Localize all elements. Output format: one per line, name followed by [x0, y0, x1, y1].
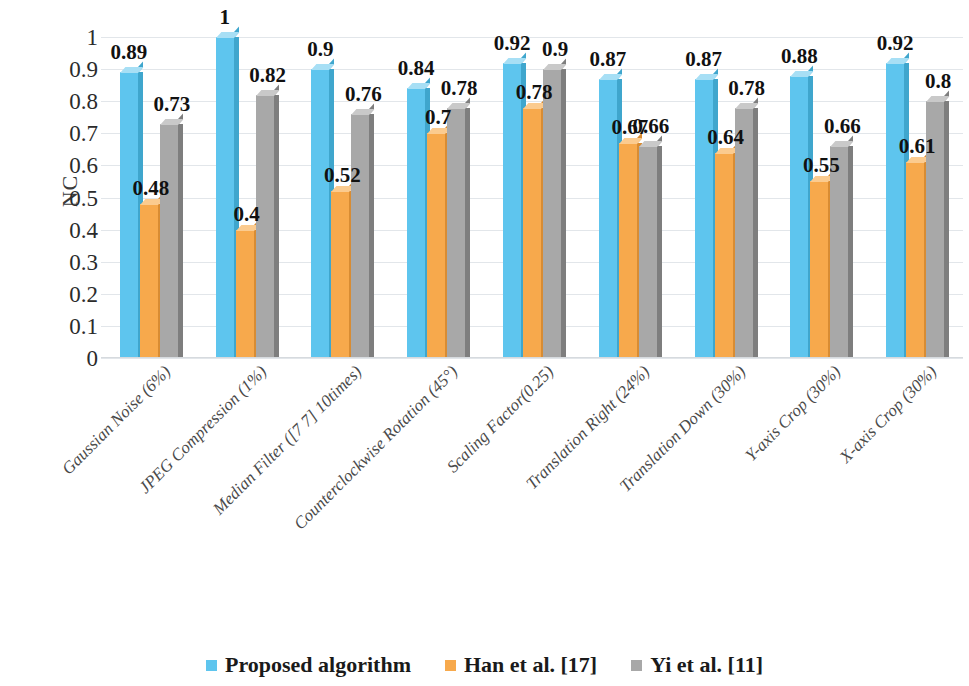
- bar[interactable]: [160, 124, 178, 358]
- bar-group: 0.920.780.9: [484, 37, 580, 358]
- bar[interactable]: [906, 162, 924, 358]
- bar-side-face: [657, 146, 662, 358]
- bar[interactable]: [619, 143, 637, 358]
- bar[interactable]: [886, 63, 904, 358]
- bar-side-face: [944, 101, 949, 358]
- bar-group: 0.920.610.8: [867, 37, 963, 358]
- bar-front-face: [810, 181, 828, 358]
- bar[interactable]: [427, 133, 445, 358]
- bar[interactable]: [447, 108, 465, 358]
- bar-front-face: [619, 143, 637, 358]
- bar[interactable]: [695, 79, 713, 358]
- bar[interactable]: [790, 76, 808, 358]
- bar-group: 0.90.520.76: [293, 37, 389, 358]
- bar-front-face: [140, 204, 158, 358]
- legend-item[interactable]: Proposed algorithm: [206, 652, 411, 678]
- bar[interactable]: [256, 95, 274, 358]
- bar-value-label: 0.9: [307, 39, 333, 60]
- bar-value-label: 0.48: [133, 178, 170, 199]
- bar-front-face: [695, 79, 713, 358]
- bar[interactable]: [543, 69, 561, 358]
- bar-value-label: 0.78: [441, 78, 478, 99]
- bar-front-face: [427, 133, 445, 358]
- bar[interactable]: [120, 72, 138, 358]
- bar-value-label: 0.4: [234, 204, 260, 225]
- bar[interactable]: [810, 181, 828, 358]
- bar-group: 10.40.82: [197, 37, 293, 358]
- bar-front-face: [906, 162, 924, 358]
- y-axis-tick-label: 0.2: [69, 282, 98, 305]
- bar-front-face: [351, 114, 369, 358]
- x-axis-tick-label: Counterclockwise Rotation (45°): [290, 362, 462, 534]
- gridline: [101, 358, 963, 359]
- y-axis-tick-label: 0.1: [69, 314, 98, 337]
- legend-swatch-icon: [445, 660, 456, 671]
- bar-group: 0.840.70.78: [388, 37, 484, 358]
- bar-value-label: 0.89: [111, 42, 148, 63]
- legend-label: Yi et al. [11]: [650, 652, 763, 678]
- bar[interactable]: [407, 88, 425, 358]
- bar-side-face: [561, 69, 566, 358]
- bar[interactable]: [331, 191, 349, 358]
- legend-item[interactable]: Yi et al. [11]: [631, 652, 763, 678]
- bar-value-label: 1: [219, 7, 230, 28]
- bar-value-label: 0.66: [824, 116, 861, 137]
- legend: Proposed algorithmHan et al. [17]Yi et a…: [0, 652, 969, 678]
- plot-area: 0.890.480.7310.40.820.90.520.760.840.70.…: [101, 37, 963, 358]
- bar[interactable]: [503, 63, 521, 358]
- bar[interactable]: [311, 69, 329, 358]
- y-axis-tick-label: 0.9: [69, 58, 98, 81]
- bar-value-label: 0.61: [899, 136, 936, 157]
- bar[interactable]: [523, 108, 541, 358]
- bar-side-face: [369, 114, 374, 358]
- bar-side-face: [848, 146, 853, 358]
- bar[interactable]: [216, 37, 234, 358]
- bar-front-face: [886, 63, 904, 358]
- bars-container: [790, 37, 848, 358]
- bar[interactable]: [830, 146, 848, 358]
- bar-side-face: [178, 124, 183, 358]
- bar-value-label: 0.87: [589, 49, 626, 70]
- bar-value-label: 0.8: [925, 71, 951, 92]
- legend-item[interactable]: Han et al. [17]: [445, 652, 597, 678]
- y-axis-tick-label: 0: [87, 347, 99, 370]
- bar-front-face: [160, 124, 178, 358]
- bar[interactable]: [140, 204, 158, 358]
- bar-front-face: [236, 230, 254, 358]
- bar-front-face: [543, 69, 561, 358]
- bar-group: 0.870.640.78: [676, 37, 772, 358]
- bar-value-label: 0.92: [877, 33, 914, 54]
- bar-value-label: 0.92: [494, 33, 531, 54]
- bar-value-label: 0.73: [154, 94, 191, 115]
- bar-value-label: 0.87: [685, 49, 722, 70]
- bar-value-label: 0.7: [425, 107, 451, 128]
- bar-group: 0.870.670.66: [580, 37, 676, 358]
- bar-group: 0.880.550.66: [771, 37, 867, 358]
- bar-front-face: [790, 76, 808, 358]
- y-axis-tick-label: 0.6: [69, 154, 98, 177]
- bar-value-label: 0.9: [542, 39, 568, 60]
- legend-swatch-icon: [206, 660, 217, 671]
- bar-front-face: [503, 63, 521, 358]
- x-axis-tick-label: Y-axis Crop (30%): [742, 362, 846, 466]
- bar[interactable]: [236, 230, 254, 358]
- bar-front-face: [331, 191, 349, 358]
- bar[interactable]: [715, 153, 733, 358]
- bar-front-face: [256, 95, 274, 358]
- legend-label: Han et al. [17]: [464, 652, 597, 678]
- bar-value-label: 0.64: [707, 127, 744, 148]
- y-axis-tick-label: 0.3: [69, 250, 98, 273]
- bar-chart: NC 10.90.80.70.60.50.40.30.20.10 0.890.4…: [0, 0, 969, 686]
- legend-label: Proposed algorithm: [225, 652, 411, 678]
- legend-swatch-icon: [631, 660, 642, 671]
- bar-front-face: [639, 146, 657, 358]
- bar[interactable]: [639, 146, 657, 358]
- y-axis-tick-label: 0.5: [69, 186, 98, 209]
- bar-value-label: 0.84: [398, 58, 435, 79]
- bar-value-label: 0.78: [728, 78, 765, 99]
- bar-side-face: [753, 108, 758, 358]
- bar[interactable]: [351, 114, 369, 358]
- y-axis-tick-label: 0.7: [69, 122, 98, 145]
- bar-front-face: [120, 72, 138, 358]
- bar-front-face: [407, 88, 425, 358]
